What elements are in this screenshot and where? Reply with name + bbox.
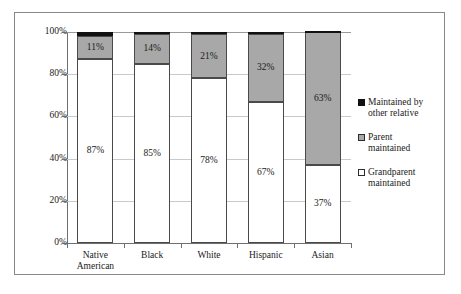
bar-segment-parent[interactable]: 11% [77,36,113,59]
x-tick-mark [124,243,125,248]
bar-value-label: 67% [257,168,274,178]
chart-frame: 100% 80% 60% 40% 20% 0% 87% 11% [14,12,445,275]
bar-segment-other-relative[interactable] [305,31,341,33]
bar-segment-grandparent[interactable]: 87% [77,59,113,243]
x-category-label-line1: White [181,250,238,261]
bar-segment-grandparent[interactable]: 78% [191,78,227,243]
legend-label-line2: other relative [368,108,418,118]
y-tick-label: 0% [21,238,67,248]
legend-label-line1: Maintained by [368,97,423,107]
x-tick-mark [67,243,68,248]
bar-segment-other-relative[interactable] [134,32,170,34]
bar-group-hispanic[interactable]: 67% 32% [248,32,284,243]
bar-segment-other-relative[interactable] [248,32,284,34]
bar-value-label: 85% [143,149,160,159]
legend-label-line2: maintained [368,178,410,188]
bar-segment-other-relative[interactable] [77,32,113,36]
bar-segment-parent[interactable]: 32% [248,34,284,102]
x-tick-mark [237,243,238,248]
gray-square-icon [358,134,365,141]
bar-value-label: 63% [314,94,331,104]
legend-entry-other-relative[interactable]: Maintained by other relative [358,97,446,119]
bar-segment-parent[interactable]: 14% [134,34,170,64]
y-tick-label: 100% [21,27,67,37]
black-square-icon [358,99,365,106]
bar-value-label: 32% [257,63,274,73]
x-tick-mark [351,243,352,248]
x-tick-mark [181,243,182,248]
x-axis-line [67,243,352,244]
legend-label-line2: maintained [368,143,410,153]
x-tick-mark [294,243,295,248]
x-category-label-line1: Asian [294,250,351,261]
y-tick-label: 20% [21,196,67,206]
y-tick-label: 80% [21,69,67,79]
x-category-label-native-american: Native American [67,250,124,272]
bar-value-label: 11% [87,43,104,53]
x-category-label-white: White [181,250,238,261]
legend-label: Parent maintained [368,132,410,154]
bar-value-label: 14% [143,44,160,54]
x-category-label-line1: Hispanic [237,250,294,261]
y-tick-label: 60% [21,112,67,122]
bar-segment-other-relative[interactable] [191,32,227,34]
bar-segment-grandparent[interactable]: 85% [134,64,170,243]
bar-value-label: 78% [200,156,217,166]
x-category-label-line1: Native [67,250,124,261]
legend-entry-grandparent[interactable]: Grandparent maintained [358,167,446,189]
legend-label-line1: Grandparent [368,167,415,177]
x-category-label-line2: American [67,261,124,272]
bar-value-label: 87% [87,146,104,156]
x-category-label-black: Black [124,250,181,261]
x-category-label-line1: Black [124,250,181,261]
bar-segment-grandparent[interactable]: 67% [248,102,284,243]
legend: Maintained by other relative Parent main… [358,97,446,202]
plot-area: 87% 11% 85% 14% 78% 21% [67,32,351,243]
legend-entry-parent[interactable]: Parent maintained [358,132,446,154]
legend-label-line1: Parent [368,132,392,142]
bar-segment-parent[interactable]: 21% [191,34,227,78]
bar-group-asian[interactable]: 37% 63% [305,32,341,243]
bar-group-native-american[interactable]: 87% 11% [77,32,113,243]
bar-value-label: 37% [314,199,331,209]
bar-value-label: 21% [200,52,217,62]
x-category-label-hispanic: Hispanic [237,250,294,261]
y-tick-label: 40% [21,154,67,164]
bar-segment-grandparent[interactable]: 37% [305,165,341,243]
legend-label: Grandparent maintained [368,167,415,189]
bar-group-black[interactable]: 85% 14% [134,32,170,243]
legend-label: Maintained by other relative [368,97,423,119]
bar-segment-parent[interactable]: 63% [305,32,341,165]
bar-group-white[interactable]: 78% 21% [191,32,227,243]
white-square-icon [358,169,365,176]
x-category-label-asian: Asian [294,250,351,261]
y-axis: 100% 80% 60% 40% 20% 0% [15,13,67,263]
